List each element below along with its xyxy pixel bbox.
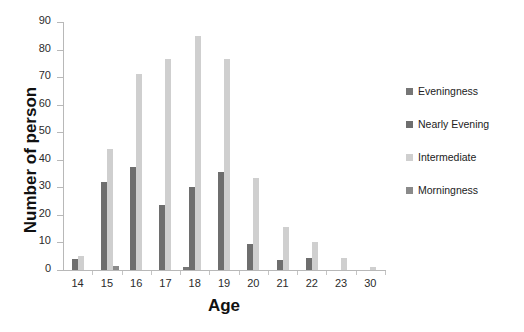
y-axis-tick-label: 70 xyxy=(11,69,51,81)
x-axis-tick-label: 20 xyxy=(238,277,268,289)
y-axis-tick-mark xyxy=(57,270,63,271)
y-axis-tick-label: 20 xyxy=(11,207,51,219)
x-axis-tick-mark xyxy=(356,271,357,275)
chart-legend: EveningnessNearly EveningIntermediateMor… xyxy=(406,78,522,210)
bar xyxy=(165,59,171,270)
bar xyxy=(136,74,142,270)
bar xyxy=(312,242,318,270)
bar xyxy=(253,178,259,270)
x-axis-tick-label: 23 xyxy=(326,277,356,289)
bar xyxy=(283,227,289,270)
legend-item[interactable]: Eveningness xyxy=(406,78,522,104)
y-axis-tick-label: 30 xyxy=(11,179,51,191)
bar xyxy=(370,267,376,270)
x-axis-tick-mark xyxy=(180,271,181,275)
x-axis-tick-label: 17 xyxy=(150,277,180,289)
bar xyxy=(195,36,201,270)
x-axis-line xyxy=(63,270,386,271)
y-axis-tick-label: 60 xyxy=(11,97,51,109)
legend-item-label: Nearly Evening xyxy=(418,118,489,130)
x-axis-tick-label: 22 xyxy=(297,277,327,289)
x-axis-tick-mark xyxy=(268,271,269,275)
bar xyxy=(107,149,113,270)
legend-swatch-icon xyxy=(406,121,413,128)
x-axis-tick-mark xyxy=(122,271,123,275)
x-axis-tick-mark xyxy=(151,271,152,275)
plot-area xyxy=(63,22,385,270)
x-axis-tick-mark xyxy=(385,271,386,275)
legend-swatch-icon xyxy=(406,88,413,95)
x-axis-tick-label: 30 xyxy=(355,277,385,289)
legend-item[interactable]: Morningness xyxy=(406,177,522,203)
x-axis-title: Age xyxy=(63,296,385,316)
x-axis-tick-label: 21 xyxy=(268,277,298,289)
x-axis-tick-mark xyxy=(239,271,240,275)
legend-swatch-icon xyxy=(406,154,413,161)
legend-item-label: Morningness xyxy=(418,184,478,196)
y-axis-tick-label: 80 xyxy=(11,42,51,54)
x-axis-tick-label: 16 xyxy=(121,277,151,289)
y-axis-tick-label: 50 xyxy=(11,124,51,136)
legend-item[interactable]: Intermediate xyxy=(406,144,522,170)
bar xyxy=(78,256,84,270)
y-axis-tick-label: 40 xyxy=(11,152,51,164)
bar-chart-figure: Number of person Age 0102030405060708090… xyxy=(0,0,524,332)
bar xyxy=(113,266,119,270)
legend-item[interactable]: Nearly Evening xyxy=(406,111,522,137)
x-axis-tick-label: 14 xyxy=(63,277,93,289)
x-axis-tick-label: 18 xyxy=(180,277,210,289)
x-axis-tick-mark xyxy=(209,271,210,275)
y-axis-tick-label: 10 xyxy=(11,234,51,246)
y-axis-tick-label: 90 xyxy=(11,14,51,26)
y-axis-tick-label: 0 xyxy=(11,262,51,274)
x-axis-tick-label: 15 xyxy=(92,277,122,289)
legend-item-label: Intermediate xyxy=(418,151,476,163)
bar xyxy=(341,258,347,270)
x-axis-tick-mark xyxy=(297,271,298,275)
legend-swatch-icon xyxy=(406,187,413,194)
x-axis-tick-mark xyxy=(326,271,327,275)
x-axis-tick-mark xyxy=(92,271,93,275)
legend-item-label: Eveningness xyxy=(418,85,478,97)
x-axis-tick-label: 19 xyxy=(209,277,239,289)
bar xyxy=(224,59,230,270)
